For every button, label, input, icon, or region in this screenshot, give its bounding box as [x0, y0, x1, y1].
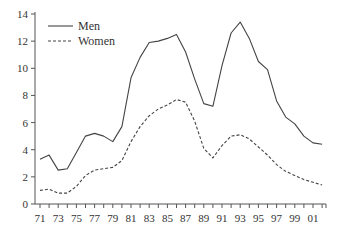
x-tick-label: 97 — [271, 212, 283, 224]
chart-legend: MenWomen — [48, 19, 115, 48]
x-tick-label: 87 — [180, 212, 192, 224]
x-tick-label: 75 — [71, 212, 83, 224]
legend-label-women: Women — [78, 34, 115, 48]
x-tick-label: 99 — [289, 212, 301, 224]
x-tick-label: 83 — [144, 212, 156, 224]
y-tick-label: 0 — [23, 198, 29, 210]
x-tick-label: 81 — [126, 212, 137, 224]
y-tick-label: 12 — [17, 35, 28, 47]
x-tick-label: 89 — [198, 212, 210, 224]
x-tick-label: 79 — [107, 212, 119, 224]
y-tick-label: 10 — [17, 62, 29, 74]
x-tick-label: 71 — [35, 212, 46, 224]
x-tick-label: 73 — [53, 212, 65, 224]
x-tick-label: 95 — [253, 212, 265, 224]
y-tick-label: 8 — [23, 89, 29, 101]
x-tick-label: 91 — [217, 212, 228, 224]
x-tick-label: 77 — [89, 212, 101, 224]
line-chart: 0246810121471737577798183858789919395979… — [0, 0, 339, 236]
y-tick-label: 14 — [17, 8, 29, 20]
x-tick-label: 01 — [308, 212, 319, 224]
y-tick-label: 6 — [23, 117, 29, 129]
y-tick-label: 2 — [23, 171, 29, 183]
y-tick-label: 4 — [23, 144, 29, 156]
series-line-women — [40, 100, 322, 194]
chart-axes: 0246810121471737577798183858789919395979… — [17, 8, 326, 224]
x-tick-label: 93 — [235, 212, 247, 224]
x-tick-label: 85 — [162, 212, 174, 224]
legend-label-men: Men — [78, 19, 100, 33]
